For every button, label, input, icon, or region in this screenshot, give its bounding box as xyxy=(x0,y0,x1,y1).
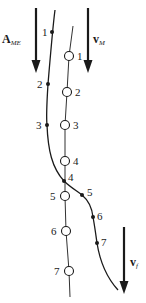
vector-subscript: ME xyxy=(11,39,21,47)
filled-dot-4 xyxy=(62,179,66,183)
arrowhead-icon xyxy=(120,281,129,294)
open-circle-6 xyxy=(62,227,71,236)
open-circle-3 xyxy=(61,121,70,130)
filled-dot-label-6: 6 xyxy=(97,211,103,222)
vector-subscript: M xyxy=(99,39,105,47)
open-circle-label-7: 7 xyxy=(54,266,60,277)
vector-symbol: A xyxy=(2,32,11,46)
open-circle-1 xyxy=(65,52,74,61)
label-a-me: AME xyxy=(2,33,21,47)
filled-dot-label-1: 1 xyxy=(42,27,48,38)
filled-dot-label-3: 3 xyxy=(36,120,42,131)
open-circle-4 xyxy=(61,157,70,166)
filled-dot-5 xyxy=(80,193,84,197)
vector-arrow-a-me xyxy=(32,8,41,73)
label-v-m: vM xyxy=(93,33,105,47)
filled-dot-label-5: 5 xyxy=(87,187,93,198)
filled-dot-2 xyxy=(46,82,50,86)
arrowhead-icon xyxy=(32,60,41,73)
filled-dot-label-7: 7 xyxy=(101,237,107,248)
filled-dot-3 xyxy=(45,123,49,127)
open-circle-label-6: 6 xyxy=(51,226,57,237)
filled-dot-6 xyxy=(91,215,95,219)
filled-dot-1 xyxy=(50,30,54,34)
open-circle-label-2: 2 xyxy=(75,87,81,98)
open-circle-label-4: 4 xyxy=(73,156,79,167)
velocity-diagram xyxy=(0,0,146,303)
filled-dot-label-2: 2 xyxy=(37,79,43,90)
open-circle-label-3: 3 xyxy=(73,120,79,131)
label-v-f: vf xyxy=(130,256,138,270)
open-circle-5 xyxy=(61,192,70,201)
open-circle-2 xyxy=(63,88,72,97)
vector-subscript: f xyxy=(136,262,138,270)
vector-arrow-v-f xyxy=(120,227,129,294)
arrowhead-icon xyxy=(84,60,93,73)
filled-dot-7 xyxy=(95,241,99,245)
vector-arrow-v-m xyxy=(84,8,93,73)
open-circle-label-5: 5 xyxy=(50,191,56,202)
filled-dot-label-4: 4 xyxy=(68,172,74,183)
open-circle-label-1: 1 xyxy=(77,51,83,62)
open-circle-7 xyxy=(65,267,74,276)
